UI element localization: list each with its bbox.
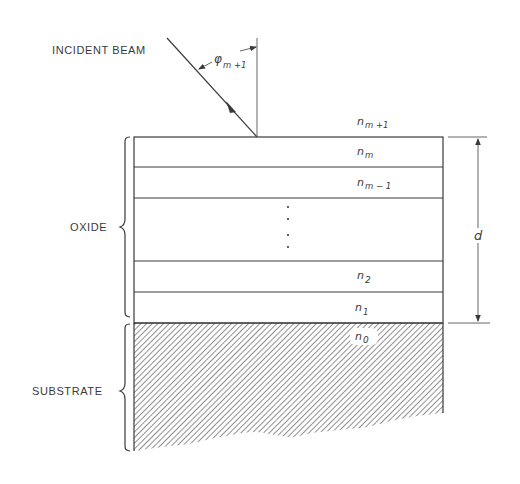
- label-n-m-minus-1: nm − 1: [357, 176, 391, 191]
- oxide-label: OXIDE: [70, 221, 107, 233]
- angle-annotation: φm +1: [199, 47, 256, 70]
- substrate-brace: SUBSTRATE: [32, 324, 130, 451]
- label-n-m-plus-1: nm +1: [357, 115, 389, 130]
- substrate-label: SUBSTRATE: [32, 385, 103, 397]
- beam-arrow-icon: [226, 101, 236, 113]
- oxide-stack: [134, 137, 443, 323]
- layer-labels: nm +1 nm nm − 1 n2 n1 n0: [355, 115, 391, 345]
- ellipsis-dots: [287, 206, 289, 248]
- thickness-label: d: [474, 228, 483, 243]
- substrate-region: [134, 323, 443, 453]
- angle-label: φm +1: [214, 52, 246, 70]
- label-n-1: n1: [355, 301, 368, 317]
- label-n-2: n2: [357, 269, 371, 285]
- oxide-brace: OXIDE: [70, 137, 130, 317]
- label-n-m: nm: [357, 145, 373, 160]
- thickness-dimension: d: [448, 137, 490, 323]
- multilayer-diagram: nm +1 nm nm − 1 n2 n1 n0 INCIDENT BEAM φ…: [0, 0, 520, 484]
- incident-beam-label: INCIDENT BEAM: [52, 44, 146, 56]
- incident-beam: INCIDENT BEAM: [52, 38, 257, 137]
